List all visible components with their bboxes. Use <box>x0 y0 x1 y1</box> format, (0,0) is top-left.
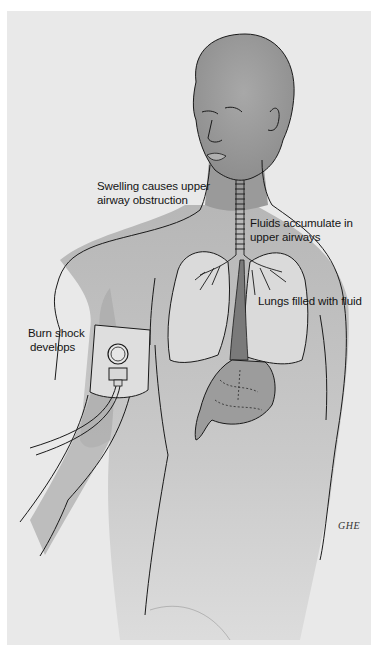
label-burn-shock: Burn shock develops <box>28 326 85 354</box>
artist-signature: GHE <box>338 520 360 531</box>
label-lungs: Lungs filled with fluid <box>258 294 362 308</box>
head <box>193 34 294 180</box>
lung-right <box>244 253 308 364</box>
label-fluids: Fluids accumulate in upper airways <box>250 216 353 244</box>
label-swelling: Swelling causes upper airway obstruction <box>97 179 210 207</box>
bp-connector <box>109 368 127 380</box>
